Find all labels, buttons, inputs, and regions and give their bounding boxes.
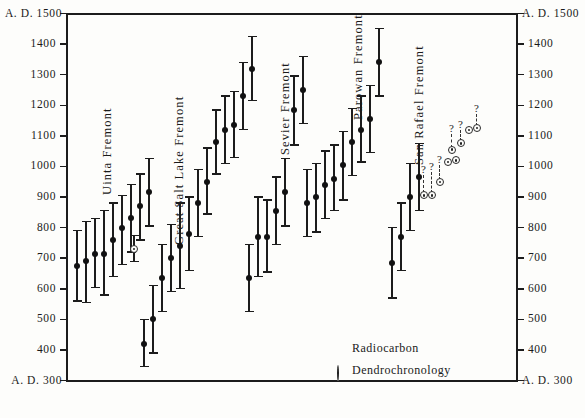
radiocarbon-point (222, 127, 228, 133)
tick-left-1000 (60, 166, 68, 168)
radiocarbon-point (246, 275, 252, 281)
error-bar-cap (339, 131, 348, 132)
radiocarbon-point (159, 275, 165, 281)
radiocarbon-point (195, 200, 201, 206)
error-bar-cap (321, 150, 330, 151)
error-bar-cap (194, 236, 203, 237)
error-bar-cap (366, 85, 375, 86)
error-bar-cap (203, 147, 212, 148)
error-bar-cap (330, 144, 339, 145)
corner-label-bottom-left: A. D. 300 (0, 375, 62, 387)
error-bar-cap (321, 218, 330, 219)
error-bar-cap (272, 244, 281, 245)
error-bar-cap (290, 75, 299, 76)
radiocarbon-point (110, 237, 116, 243)
error-bar-cap (118, 264, 127, 265)
error-bar-cap (357, 95, 366, 96)
error-bar-cap (239, 62, 248, 63)
tick-right-1100 (516, 135, 524, 137)
tick-right-600 (516, 288, 524, 290)
error-bar-cap (248, 36, 257, 37)
tick-right-1200 (516, 105, 524, 107)
error-bar-cap (299, 56, 308, 57)
error-bar-cap (366, 152, 375, 153)
corner-label-bottom-right: A. D. 300 (522, 375, 584, 387)
error-bar-cap (312, 163, 321, 164)
error-bar-cap (212, 109, 221, 110)
radiocarbon-point (331, 176, 337, 182)
error-bar-cap (221, 163, 230, 164)
tick-right-1000 (516, 166, 524, 168)
radiocarbon-point (146, 189, 152, 195)
error-bar-cap (230, 157, 239, 158)
error-bar-cap (203, 213, 212, 214)
tick-left-1300 (60, 74, 68, 76)
error-bar-cap (299, 123, 308, 124)
error-bar-cap (254, 196, 263, 197)
radiocarbon-point (407, 194, 413, 200)
dendrochronology-point (448, 146, 456, 154)
error-bar-cap (109, 276, 118, 277)
tick-left-400 (60, 349, 68, 351)
tick-label-right-700: 700 (528, 252, 584, 264)
dendrochronology-point (452, 156, 460, 164)
tick-label-right-900: 900 (528, 191, 584, 203)
tick-label-left-600: 600 (0, 283, 56, 295)
radiocarbon-point (264, 234, 270, 240)
radiocarbon-point (204, 179, 210, 185)
error-bar-cap (375, 28, 384, 29)
group-label-uinta-fremont: Uinta Fremont (101, 107, 114, 195)
tick-label-right-1400: 1400 (528, 38, 584, 50)
tick-label-left-1400: 1400 (0, 38, 56, 50)
radiocarbon-point (273, 208, 279, 214)
radiocarbon-point (282, 189, 288, 195)
error-bar-cap (245, 311, 254, 312)
error-bar-cap (312, 231, 321, 232)
error-bar-cap (415, 143, 424, 144)
error-bar-cap (281, 158, 290, 159)
error-bar-cap (140, 319, 149, 320)
chart-figure: 1400140013001300120012001100110010001000… (0, 0, 585, 418)
error-bar-cap (263, 271, 272, 272)
uncertainty-question-mark: ? (449, 123, 454, 134)
radiocarbon-point (322, 182, 328, 188)
error-bar-cap (230, 91, 239, 92)
radiocarbon-point (358, 127, 364, 133)
error-bar-cap (406, 230, 415, 231)
error-bar-cap (397, 202, 406, 203)
error-bar-cap (272, 176, 281, 177)
radiocarbon-point (74, 263, 80, 269)
radiocarbon-point (313, 194, 319, 200)
tick-label-right-1200: 1200 (528, 99, 584, 111)
radiocarbon-point (255, 234, 261, 240)
radiocarbon-point (231, 122, 237, 128)
radiocarbon-point (186, 231, 192, 237)
radiocarbon-point (137, 203, 143, 209)
circled-dot-icon (337, 367, 339, 382)
error-bar-cap (290, 144, 299, 145)
error-bar-cap (118, 195, 127, 196)
error-bar-cap (388, 297, 397, 298)
error-bar-cap (357, 161, 366, 162)
tick-label-right-1000: 1000 (528, 160, 584, 172)
tick-left-500 (60, 319, 68, 321)
error-bar-cap (130, 261, 139, 262)
tick-left-900 (60, 196, 68, 198)
uncertainty-dashed-line (431, 172, 432, 193)
error-bar-cap (158, 311, 167, 312)
error-bar-cap (176, 288, 185, 289)
tick-right-700 (516, 257, 524, 259)
error-bar-cap (145, 158, 154, 159)
uncertainty-question-mark: ? (437, 154, 442, 165)
tick-right-1400 (516, 43, 524, 45)
tick-label-right-1100: 1100 (528, 130, 584, 142)
radiocarbon-point (240, 93, 246, 99)
tick-left-600 (60, 288, 68, 290)
error-bar-cap (100, 294, 109, 295)
error-bar-cap (136, 239, 145, 240)
error-bar-cap (140, 366, 149, 367)
radiocarbon-point (128, 215, 134, 221)
corner-label-top-left: A. D. 1500 (0, 8, 62, 20)
tick-label-right-1300: 1300 (528, 69, 584, 81)
radiocarbon-point (150, 316, 156, 322)
